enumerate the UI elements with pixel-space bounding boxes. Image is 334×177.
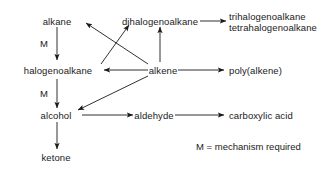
edge-alkene-to-alcohol [78, 76, 148, 110]
node-aldehyde: aldehyde [134, 110, 173, 121]
mechanism-label-alkane-halogenoalkane: M [40, 38, 48, 49]
legend-text: M = mechanism required [196, 141, 301, 152]
edge-halogenoalkane-to-dihalogenoalkane [101, 25, 129, 64]
node-tetrahalogenoalkane: tetrahalogenoalkane [229, 22, 317, 33]
node-alkane: alkane [43, 16, 72, 27]
node-dihalogenoalkane: dihalogenoalkane [122, 16, 198, 27]
node-poly-alkene: poly(alkene) [229, 65, 282, 76]
mechanism-label-halogenoalkane-alcohol: M [40, 88, 48, 99]
node-alcohol: alcohol [41, 110, 72, 121]
reaction-scheme-diagram: alkane halogenoalkane dihalogenoalkane t… [0, 0, 334, 177]
node-trihalogenoalkane: trihalogenoalkane [229, 11, 306, 22]
node-alkene: alkene [149, 65, 178, 76]
node-ketone: ketone [41, 152, 70, 163]
node-carboxylic-acid: carboxylic acid [229, 110, 293, 121]
node-halogenoalkane: halogenoalkane [24, 65, 93, 76]
edge-alkene-to-alkane [86, 23, 148, 64]
